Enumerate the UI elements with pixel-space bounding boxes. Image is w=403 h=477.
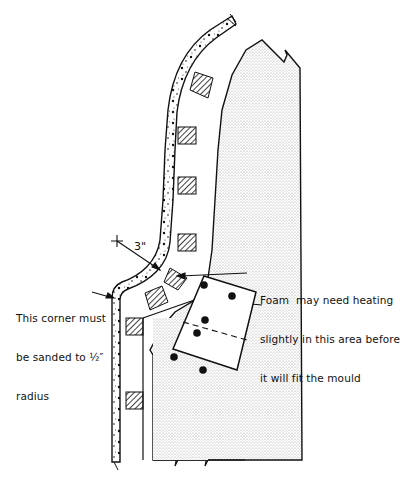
spacer-block — [178, 127, 196, 144]
spacer-block — [145, 286, 168, 310]
corner-note-line: be sanded to ½″ — [16, 351, 106, 364]
bolt — [170, 353, 178, 361]
bolt — [199, 366, 207, 374]
corner-note-line: radius — [16, 390, 106, 403]
corner-note-line: This corner must — [16, 312, 106, 325]
foam-note-line: slightly in this area before — [260, 333, 400, 346]
foam-note-line: it will fit the mould — [260, 372, 400, 385]
spacer-block — [190, 72, 213, 98]
corner-note: This corner must be sanded to ½″ radius — [16, 286, 106, 416]
spacer-block — [126, 392, 143, 409]
foam-note-line: Foam may need heating — [260, 294, 400, 307]
bolt — [200, 281, 208, 289]
bolt — [228, 292, 236, 300]
spacer-block — [178, 177, 196, 194]
bolt — [201, 316, 209, 324]
spacer-block — [126, 318, 143, 335]
radius-dimension-label: 3" — [134, 240, 146, 253]
spacer-block — [178, 234, 196, 251]
foam-note: Foam may need heating slightly in this a… — [260, 268, 400, 398]
bolt — [193, 329, 201, 337]
